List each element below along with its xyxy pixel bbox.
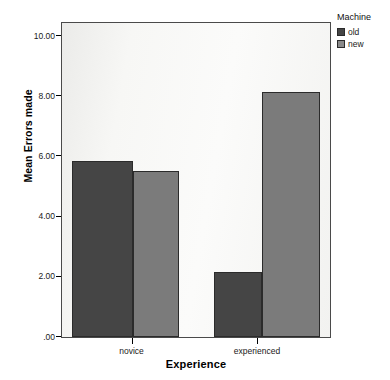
- y-axis-tick-label: 4.00: [38, 210, 55, 222]
- legend-item-old[interactable]: old: [337, 26, 389, 37]
- x-axis-tick-label: novice: [119, 346, 144, 356]
- y-axis-tick-label: 10.00: [34, 30, 55, 42]
- legend-item-label: old: [348, 27, 359, 37]
- x-axis-tick-label: experienced: [234, 346, 280, 356]
- x-axis-title: Experience: [61, 358, 331, 370]
- bar-novice-old: [72, 161, 133, 337]
- legend-items: oldnew: [337, 26, 389, 49]
- legend-item-label: new: [348, 39, 364, 49]
- legend: Machine oldnew: [337, 12, 389, 50]
- bars-container: [62, 23, 330, 337]
- plot-area: [61, 22, 331, 338]
- x-axis-tick-mark: [257, 338, 258, 344]
- legend-item-new[interactable]: new: [337, 38, 389, 49]
- y-axis-tick-label: 8.00: [38, 90, 55, 102]
- bar-novice-new: [133, 171, 179, 337]
- bar-experienced-old: [214, 272, 262, 337]
- legend-swatch-icon: [337, 40, 345, 48]
- y-axis-tick-label: .00: [43, 331, 55, 343]
- y-axis-tick-label: 2.00: [38, 270, 55, 282]
- bar-experienced-new: [262, 92, 320, 337]
- y-axis: 10.008.006.004.002.00.00: [0, 0, 62, 380]
- bar-chart: Mean Errors made 10.008.006.004.002.00.0…: [0, 0, 390, 380]
- legend-title: Machine: [337, 12, 389, 22]
- legend-swatch-icon: [337, 28, 345, 36]
- x-axis-tick-mark: [132, 338, 133, 344]
- y-axis-tick-label: 6.00: [38, 150, 55, 162]
